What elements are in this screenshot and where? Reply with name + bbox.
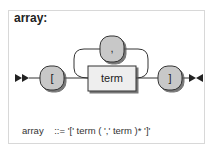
terminal-comma: , (100, 36, 124, 62)
start-arrow-icon (15, 74, 29, 82)
end-arrow-icon (189, 74, 203, 82)
grammar-definition: array ::= '[' term ( ',' term )* ']' (22, 125, 150, 136)
nonterminal-term: term (88, 66, 136, 91)
definition-body: '[' term ( ',' term )* ']' (68, 125, 151, 136)
svg-text:,: , (110, 42, 113, 54)
svg-text:term: term (101, 72, 123, 84)
definition-name: array (22, 125, 44, 136)
terminal-open-bracket: [ (40, 66, 64, 90)
definition-operator: ::= (54, 125, 65, 136)
svg-text:]: ] (168, 72, 171, 84)
svg-text:[: [ (50, 72, 53, 84)
terminal-close-bracket: ] (158, 66, 182, 90)
